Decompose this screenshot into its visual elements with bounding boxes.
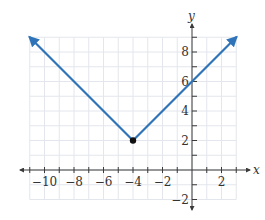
x-tick-label: −6 [95,175,113,189]
x-tick-label: −4 [124,175,142,189]
vertex-points [130,137,136,143]
y-tick-label: −2 [171,193,189,207]
x-tick-label: −10 [32,175,57,189]
x-tick-label: −8 [65,175,83,189]
x-axis-label: x [253,163,260,177]
x-tick-label: −2 [154,175,172,189]
vertex-point [130,137,136,143]
y-axis-label: y [187,9,195,23]
y-tick-label: 2 [181,134,189,148]
x-tick-label: 2 [218,175,226,189]
absolute-value-graph: −10−8−6−4−22−22468 x y [0,0,265,220]
y-tick-label: 8 [181,45,189,59]
y-tick-label: 4 [181,104,189,118]
